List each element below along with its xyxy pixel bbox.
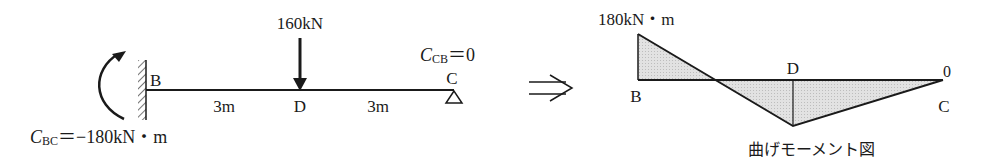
- moment-max-label: 180kN・m: [598, 10, 675, 29]
- moment-b-subscript: BC: [42, 134, 58, 148]
- diagram-caption: 曲げモーメント図: [748, 141, 875, 158]
- bending-moment-diagram: 180kN・m B D 0 C 曲げモーメント図: [598, 10, 951, 158]
- moment-c-label: CCB＝0: [420, 45, 475, 66]
- span-dc-label: 3m: [367, 97, 389, 116]
- span-bd-label: 3m: [213, 97, 235, 116]
- node-d-label: D: [294, 97, 306, 116]
- beam-and-moment-diagram: 160kN B D C 3m 3m CBC＝−180kN・m CCB＝0: [0, 0, 984, 164]
- beam-diagram: 160kN B D C 3m 3m CBC＝−180kN・m CCB＝0: [30, 14, 475, 148]
- moment-b-label: CBC＝−180kN・m: [30, 127, 167, 148]
- moment-c-subscript: CB: [432, 52, 448, 66]
- implies-arrow-icon: [529, 75, 572, 101]
- diagram-zero-label: 0: [943, 63, 951, 80]
- diagram-node-d-label: D: [787, 59, 799, 78]
- moment-arrow-curve: [99, 54, 124, 119]
- moment-area-negative: [714, 80, 943, 126]
- node-b-label: B: [150, 71, 161, 90]
- diagram-node-b-label: B: [630, 87, 641, 106]
- node-c-label: C: [446, 69, 457, 88]
- moment-c-value: ＝0: [448, 45, 475, 65]
- pin-support-icon: [446, 91, 462, 103]
- fixed-support-hatch: [138, 60, 146, 120]
- moment-b-value: ＝−180kN・m: [58, 127, 167, 147]
- load-label: 160kN: [277, 14, 323, 33]
- diagram-node-c-label: C: [938, 97, 949, 116]
